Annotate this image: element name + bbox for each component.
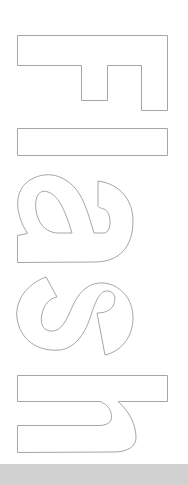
flash-wordmark-outline [0, 0, 188, 464]
letter-l [18, 129, 168, 156]
letter-h [18, 376, 168, 453]
letter-f [18, 36, 168, 111]
letter-a [18, 175, 134, 263]
bottom-bar [0, 464, 188, 485]
letter-s [17, 277, 133, 355]
